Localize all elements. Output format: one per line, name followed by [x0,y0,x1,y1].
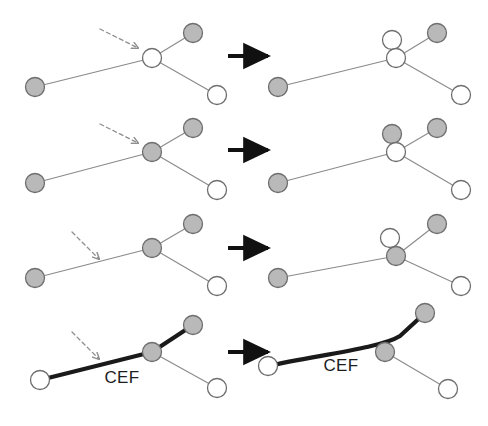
node-upper-right-filled [416,304,435,323]
row-1-after-graph [269,24,471,105]
node-lower-right-empty [208,86,227,105]
node-split-empty [383,31,402,50]
cef-label-before: CEF [105,368,140,387]
node-lower-right-empty [452,181,471,200]
node-lower-right-empty [208,379,227,398]
row-3-before-graph [26,215,227,296]
edge-center-lower-right [152,248,217,286]
node-left-filled [269,78,288,97]
row-1 [26,24,471,105]
transformation-diagram: CEF CEF [0,0,488,426]
row-3-after-graph [269,215,471,296]
edge-left-center [278,256,396,278]
node-center-filled [143,239,162,258]
node-left-filled [26,269,45,288]
node-center-filled [143,143,162,162]
row-3 [26,215,471,296]
node-upper-right-filled [184,119,203,138]
node-center-empty [387,49,406,68]
node-left-filled [26,78,45,97]
node-lower-right-empty [208,277,227,296]
edge-center-lower-right [152,152,217,190]
node-center-empty [387,143,406,162]
row-2-after-graph [269,119,471,200]
node-center-filled [387,247,406,266]
node-left-empty [31,371,50,390]
node-upper-right-filled [184,24,203,43]
edge-center-lower-right [385,352,448,389]
dashed-pointer-arrow [72,232,99,259]
node-lower-right-empty [439,380,458,399]
row-1-before-graph [26,24,227,105]
edge-left-center [35,58,152,87]
node-center-filled [143,343,162,362]
row-2 [26,119,471,200]
node-left-filled [26,174,45,193]
edge-center-lower-right [152,352,217,388]
edge-center-lower-right [152,58,217,95]
edge-center-lower-right [396,256,461,286]
node-lower-right-empty [452,86,471,105]
node-left-filled [269,269,288,288]
dashed-pointer-arrow [100,29,138,48]
node-upper-right-filled [184,215,203,234]
node-split-empty [381,229,400,248]
row-4-after-graph: CEF [259,304,458,399]
cef-label-after: CEF [324,356,359,375]
row-4: CEF CEF [31,304,458,399]
dashed-pointer-arrow [72,332,99,359]
edge-left-center [278,152,396,183]
diagram-canvas: CEF CEF [0,0,488,426]
node-upper-right-filled [428,24,447,43]
node-upper-right-filled [428,119,447,138]
edge-center-lower-right [396,152,461,190]
node-center-filled [376,343,395,362]
dashed-pointer-arrow [100,124,138,143]
row-4-before-graph: CEF [31,316,227,398]
edge-left-center [35,152,152,183]
node-lower-right-empty [208,181,227,200]
node-lower-right-empty [452,277,471,296]
node-center-empty [143,49,162,68]
node-upper-right-filled [184,316,203,335]
node-left-empty [259,357,278,376]
node-upper-right-filled [428,215,447,234]
edge-left-center [35,248,152,278]
node-left-filled [269,174,288,193]
edge-center-lower-right [396,58,461,95]
row-2-before-graph [26,119,227,200]
edge-left-center [278,58,396,87]
node-split-filled [383,125,402,144]
